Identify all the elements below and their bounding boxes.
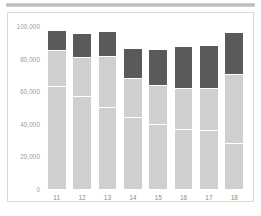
bar-segment-dark[interactable] (124, 49, 142, 78)
bar-column[interactable]: 17 (200, 46, 218, 189)
x-axis-tick-label: 16 (175, 194, 193, 201)
x-axis-tick-label: 17 (200, 194, 218, 201)
bar-segment-light[interactable] (225, 74, 243, 143)
x-axis-tick-label: 13 (99, 194, 117, 201)
bar-segment-light[interactable] (99, 56, 117, 107)
bar-segment-dark[interactable] (99, 32, 117, 56)
bar-column[interactable]: 14 (124, 49, 142, 189)
bar-segment-light[interactable] (225, 143, 243, 168)
bar-segment-light[interactable] (225, 169, 243, 189)
bar-column[interactable]: 12 (73, 34, 91, 189)
x-axis-tick-label: 12 (73, 194, 91, 201)
bar-segment-light[interactable] (175, 161, 193, 189)
bar-column[interactable]: 16 (175, 47, 193, 189)
bar-segment-light[interactable] (149, 85, 167, 124)
screenshot-root: 020,00040,00060,00080,000100,00011121314… (0, 0, 261, 216)
y-axis-tick-label: 60,000 (20, 88, 40, 95)
x-axis-tick-label: 11 (48, 194, 66, 201)
bar-segment-dark[interactable] (149, 50, 167, 85)
bar-segment-light[interactable] (124, 117, 142, 150)
bar-segment-light[interactable] (99, 132, 117, 189)
bar-segment-light[interactable] (73, 120, 91, 189)
bar-segment-dark[interactable] (225, 33, 243, 74)
bar-segment-light[interactable] (175, 88, 193, 129)
bar-segment-light[interactable] (48, 50, 66, 86)
bar-column[interactable]: 18 (225, 33, 243, 189)
bar-segment-light[interactable] (124, 150, 142, 189)
bar-segment-light[interactable] (124, 78, 142, 117)
bar-segment-light[interactable] (200, 160, 218, 189)
y-axis-tick-label: 40,000 (20, 120, 40, 127)
bar-segment-light[interactable] (175, 129, 193, 162)
x-axis-tick-label: 18 (225, 194, 243, 201)
bar-segment-light[interactable] (149, 124, 167, 157)
plot-area: 020,00040,00060,00080,000100,00011121314… (44, 26, 247, 189)
y-axis-tick-label: 80,000 (20, 55, 40, 62)
bar-column[interactable]: 15 (149, 50, 167, 189)
bar-segment-light[interactable] (73, 96, 91, 120)
x-axis-tick-label: 15 (149, 194, 167, 201)
y-axis-tick-label: 20,000 (20, 153, 40, 160)
bar-segment-dark[interactable] (200, 46, 218, 88)
bar-segment-dark[interactable] (175, 47, 193, 88)
bar-segment-light[interactable] (48, 107, 66, 189)
y-axis-tick-label: 0 (36, 186, 40, 193)
x-axis-tick-label: 14 (124, 194, 142, 201)
bar-segment-light[interactable] (73, 57, 91, 96)
bar-segment-light[interactable] (200, 130, 218, 160)
y-axis-tick-label: 100,000 (17, 23, 40, 30)
bar-column[interactable]: 13 (99, 32, 117, 189)
bar-segment-light[interactable] (48, 86, 66, 106)
chart-card: 020,00040,00060,00080,000100,00011121314… (7, 12, 254, 202)
bar-segment-dark[interactable] (73, 34, 91, 57)
bar-segment-light[interactable] (200, 88, 218, 130)
bar-column[interactable]: 11 (48, 31, 66, 189)
toolbar-strip (6, 3, 255, 7)
bar-segment-light[interactable] (99, 107, 117, 132)
bar-segment-light[interactable] (149, 157, 167, 189)
bar-segment-dark[interactable] (48, 31, 66, 51)
